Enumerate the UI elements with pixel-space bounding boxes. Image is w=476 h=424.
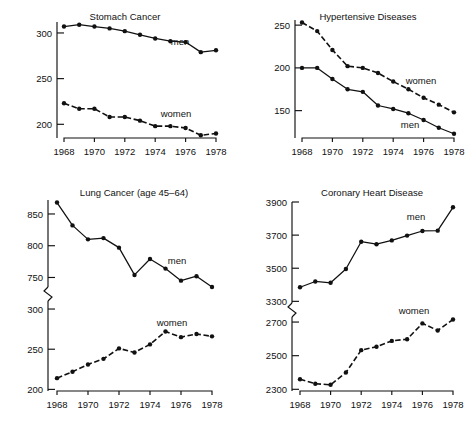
data-point bbox=[376, 103, 380, 107]
y-tick-label: 300 bbox=[27, 304, 43, 315]
series-women bbox=[55, 329, 214, 380]
data-point bbox=[300, 66, 304, 70]
data-point bbox=[328, 383, 332, 387]
y-ticks: 150200250 bbox=[274, 20, 302, 117]
series-label-women: women bbox=[160, 108, 192, 119]
series-men bbox=[55, 200, 214, 289]
x-tick-label: 1978 bbox=[201, 399, 222, 410]
data-point bbox=[199, 133, 203, 137]
data-point bbox=[344, 370, 348, 374]
data-point bbox=[107, 26, 111, 30]
x-ticks: 196819701972197419761978 bbox=[46, 391, 222, 410]
data-point bbox=[138, 33, 142, 37]
series-label-men: men bbox=[168, 255, 186, 266]
panel-coronary-heart-disease: Coronary Heart Disease 33003500370039002… bbox=[238, 180, 476, 424]
data-point bbox=[374, 242, 378, 246]
y-tick-label: 150 bbox=[274, 105, 290, 116]
data-point bbox=[437, 126, 441, 130]
data-point bbox=[345, 87, 349, 91]
data-point bbox=[210, 334, 214, 338]
data-point bbox=[153, 36, 157, 40]
y-tick-label: 300 bbox=[36, 28, 52, 39]
x-ticks: 196819701972197419761978 bbox=[291, 138, 464, 157]
x-tick-label: 1976 bbox=[413, 146, 434, 157]
data-point bbox=[163, 266, 167, 270]
y-tick-label: 850 bbox=[27, 209, 43, 220]
data-point bbox=[298, 285, 302, 289]
data-point bbox=[168, 124, 172, 128]
series-line bbox=[300, 320, 453, 385]
data-point bbox=[421, 96, 425, 100]
y-tick-label: 3500 bbox=[266, 263, 287, 274]
series-women bbox=[62, 101, 218, 137]
data-point bbox=[183, 126, 187, 130]
x-tick-label: 1968 bbox=[289, 399, 310, 410]
x-tick-label: 1976 bbox=[170, 399, 191, 410]
data-point bbox=[405, 233, 409, 237]
data-point bbox=[405, 337, 409, 341]
x-tick-label: 1970 bbox=[84, 146, 105, 157]
data-point bbox=[420, 229, 424, 233]
figure-panel-grid: Stomach Cancer 200250300 196819701972197… bbox=[0, 0, 476, 424]
data-point bbox=[70, 370, 74, 374]
data-point bbox=[92, 107, 96, 111]
y-ticks: 750800850200250300 bbox=[27, 209, 55, 395]
x-tick-label: 1976 bbox=[175, 146, 196, 157]
data-point bbox=[163, 329, 167, 333]
series-men bbox=[62, 23, 218, 55]
panel-title: Coronary Heart Disease bbox=[321, 187, 423, 198]
panel-title: Hypertensive Diseases bbox=[319, 11, 416, 22]
data-point bbox=[138, 118, 142, 122]
series-line bbox=[302, 23, 454, 113]
x-tick-label: 1970 bbox=[77, 399, 98, 410]
data-point bbox=[406, 111, 410, 115]
x-axis bbox=[57, 391, 212, 395]
data-point bbox=[194, 332, 198, 336]
data-point bbox=[344, 267, 348, 271]
panel-title: Stomach Cancer bbox=[90, 11, 161, 22]
y-tick-label: 2700 bbox=[266, 317, 287, 328]
data-point bbox=[436, 328, 440, 332]
data-point bbox=[437, 102, 441, 106]
series-label-women: women bbox=[405, 75, 437, 86]
data-point bbox=[101, 236, 105, 240]
data-point bbox=[361, 66, 365, 70]
panel-title: Lung Cancer (age 45–64) bbox=[80, 187, 188, 198]
x-tick-label: 1978 bbox=[205, 146, 226, 157]
y-tick-label: 2300 bbox=[266, 384, 287, 395]
series-label-women: women bbox=[156, 317, 188, 328]
data-point bbox=[214, 48, 218, 52]
data-point bbox=[330, 77, 334, 81]
series-line bbox=[57, 332, 212, 379]
data-point bbox=[77, 23, 81, 27]
y-tick-label: 250 bbox=[27, 344, 43, 355]
x-tick-label: 1974 bbox=[383, 146, 404, 157]
y-tick-label: 3700 bbox=[266, 230, 287, 241]
series-line bbox=[64, 25, 216, 52]
data-point bbox=[101, 357, 105, 361]
data-point bbox=[391, 107, 395, 111]
data-point bbox=[117, 346, 121, 350]
chart-hypertensive-diseases: Hypertensive Diseases 150200250 19681970… bbox=[238, 0, 476, 180]
data-point bbox=[315, 29, 319, 33]
series-women bbox=[298, 317, 455, 387]
data-point bbox=[390, 339, 394, 343]
x-tick-label: 1974 bbox=[145, 146, 166, 157]
data-point bbox=[374, 345, 378, 349]
data-point bbox=[330, 48, 334, 52]
x-axis bbox=[300, 391, 453, 395]
data-point bbox=[313, 382, 317, 386]
data-point bbox=[55, 376, 59, 380]
data-point bbox=[148, 342, 152, 346]
y-tick-label: 200 bbox=[274, 62, 290, 73]
series-label-men: men bbox=[401, 119, 419, 130]
series-line bbox=[300, 207, 453, 287]
data-point bbox=[153, 124, 157, 128]
y-tick-label: 3300 bbox=[266, 296, 287, 307]
data-point bbox=[391, 79, 395, 83]
data-point bbox=[451, 205, 455, 209]
data-point bbox=[92, 24, 96, 28]
data-point bbox=[107, 115, 111, 119]
x-tick-label: 1972 bbox=[108, 399, 129, 410]
panel-stomach-cancer: Stomach Cancer 200250300 196819701972197… bbox=[0, 0, 238, 180]
